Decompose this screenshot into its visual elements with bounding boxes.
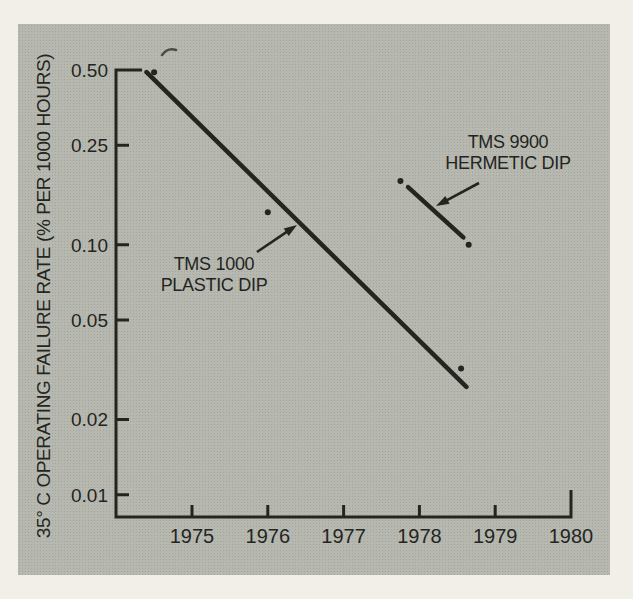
y-axis-title: 35° C OPERATING FAILURE RATE (% PER 1000… xyxy=(33,26,55,566)
annotation-tms-9900: TMS 9900 HERMETIC DIP xyxy=(433,132,583,174)
y-tick-label: 0.10 xyxy=(71,235,108,256)
y-tick-label: 0.50 xyxy=(71,60,108,81)
failure-rate-chart: 0.500.250.100.050.020.011975197619771978… xyxy=(0,0,633,599)
y-tick-label: 0.02 xyxy=(71,409,108,430)
data-point-tms-9900 xyxy=(466,242,472,248)
x-tick-label: 1979 xyxy=(473,525,518,547)
annotation-tms-1000-line1: TMS 1000 xyxy=(141,254,287,275)
x-tick-label: 1977 xyxy=(321,525,366,547)
y-tick-label: 0.05 xyxy=(71,310,108,331)
data-point-tms-1000 xyxy=(458,365,464,371)
data-point-tms-9900 xyxy=(397,178,403,184)
x-tick-label: 1980 xyxy=(549,525,594,547)
annotation-tms-1000-line2: PLASTIC DIP xyxy=(141,275,287,296)
y-tick-label: 0.25 xyxy=(71,135,108,156)
annotation-tms-1000: TMS 1000 PLASTIC DIP xyxy=(141,254,287,296)
figure-page: 0.500.250.100.050.020.011975197619771978… xyxy=(0,0,633,599)
annotation-arrow-tms-1000 xyxy=(257,231,288,252)
x-tick-label: 1978 xyxy=(397,525,442,547)
data-point-tms-1000 xyxy=(265,209,271,215)
scan-mark xyxy=(162,49,176,55)
y-tick-label: 0.01 xyxy=(71,485,108,506)
trend-line-tms-1000 xyxy=(147,72,467,387)
x-tick-label: 1975 xyxy=(170,525,215,547)
x-tick-label: 1976 xyxy=(246,525,291,547)
annotation-arrow-tms-9900 xyxy=(446,183,479,201)
annotation-tms-9900-line1: TMS 9900 xyxy=(433,132,583,153)
annotation-tms-9900-line2: HERMETIC DIP xyxy=(433,153,583,174)
annotation-arrowhead-tms-9900 xyxy=(436,196,450,206)
annotation-arrowhead-tms-1000 xyxy=(284,225,297,236)
data-point-tms-1000 xyxy=(151,69,157,75)
